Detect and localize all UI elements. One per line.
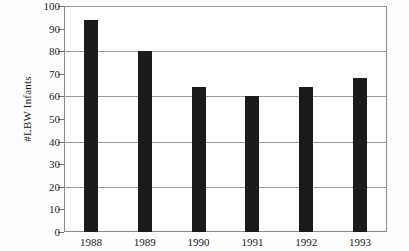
- y-tick-label-0: 0: [20, 226, 60, 238]
- y-tick-label-80: 80: [20, 45, 60, 57]
- y-tick-label-50: 50: [20, 113, 60, 125]
- x-tick-label-1989: 1989: [115, 236, 175, 248]
- bar-chart: #LBW Infants 0102030405060708090100 1988…: [0, 0, 409, 251]
- y-tick-label-20: 20: [20, 181, 60, 193]
- y-tick-label-90: 90: [20, 23, 60, 35]
- y-tick-label-10: 10: [20, 203, 60, 215]
- bar-1988: [84, 20, 98, 232]
- bar-1989: [138, 51, 152, 232]
- bar-1993: [353, 78, 367, 232]
- y-tick-label-100: 100: [20, 0, 60, 12]
- y-tick-label-70: 70: [20, 68, 60, 80]
- bars-group: [64, 6, 387, 232]
- x-tick-label-1992: 1992: [276, 236, 336, 248]
- bar-1991: [245, 96, 259, 232]
- x-tick-label-1991: 1991: [222, 236, 282, 248]
- bar-1990: [192, 87, 206, 232]
- y-tick-label-60: 60: [20, 90, 60, 102]
- y-tick-label-30: 30: [20, 158, 60, 170]
- x-tick-label-1990: 1990: [169, 236, 229, 248]
- bar-1992: [299, 87, 313, 232]
- y-tick-label-40: 40: [20, 136, 60, 148]
- x-tick-label-1993: 1993: [330, 236, 390, 248]
- x-tick-label-1988: 1988: [61, 236, 121, 248]
